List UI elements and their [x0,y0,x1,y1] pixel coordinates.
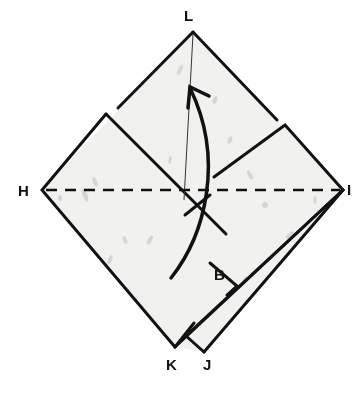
back-diamond [42,32,343,352]
diagram-canvas [0,0,364,398]
origami-diagram: L H I K J B [0,0,364,398]
label-k: K [166,357,177,372]
label-b: B [214,267,225,282]
label-h: H [18,183,29,198]
label-j: J [203,357,211,372]
label-i: I [347,182,351,197]
label-l: L [184,8,193,23]
